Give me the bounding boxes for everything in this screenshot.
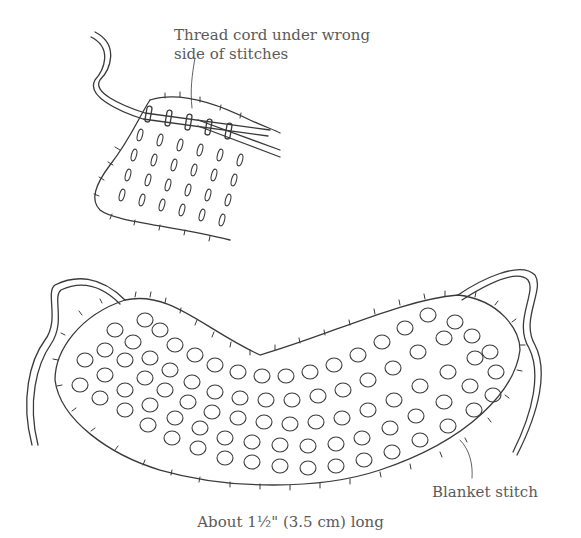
bottom-swatch bbox=[27, 270, 542, 490]
top-illustration-label: Thread cord under wrong side of stitches bbox=[174, 26, 370, 64]
figure-caption: About 1½" (3.5 cm) long bbox=[0, 513, 581, 532]
label-line-2: side of stitches bbox=[174, 45, 370, 64]
blanket-stitch-label: Blanket stitch bbox=[432, 483, 538, 502]
stitch-illustration bbox=[0, 0, 581, 538]
label-line-1: Thread cord under wrong bbox=[174, 26, 370, 45]
